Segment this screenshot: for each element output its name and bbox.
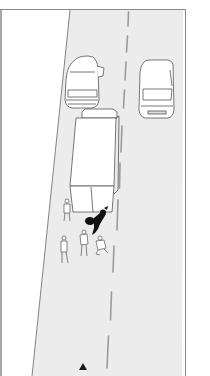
car-right-lane [139, 60, 174, 118]
accident-scene-illustration [0, 0, 210, 376]
box-truck [70, 109, 119, 212]
